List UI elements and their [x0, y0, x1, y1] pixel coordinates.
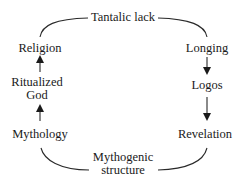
arrowhead-down-icon	[203, 113, 211, 121]
curve-religion-to-tantalic-lack	[40, 18, 88, 37]
node-longing: Longing	[186, 42, 228, 55]
node-tantalic-lack: Tantalic lack	[91, 11, 155, 24]
arrowhead-down-icon	[203, 67, 211, 75]
node-mythology: Mythology	[12, 128, 68, 141]
node-ritualized-god-line2: God	[26, 89, 48, 102]
arrowhead-up-icon	[36, 55, 44, 63]
arrowhead-up-icon	[36, 104, 44, 112]
node-religion: Religion	[18, 42, 61, 55]
curve-mythology-to-mythogenic-structure	[41, 148, 89, 170]
node-logos: Logos	[191, 79, 222, 92]
curve-tantalic-lack-to-longing	[158, 18, 207, 37]
node-mythogenic-structure-line2: structure	[101, 164, 145, 177]
node-revelation: Revelation	[178, 128, 232, 141]
curve-revelation-to-mythogenic-structure	[158, 148, 207, 170]
